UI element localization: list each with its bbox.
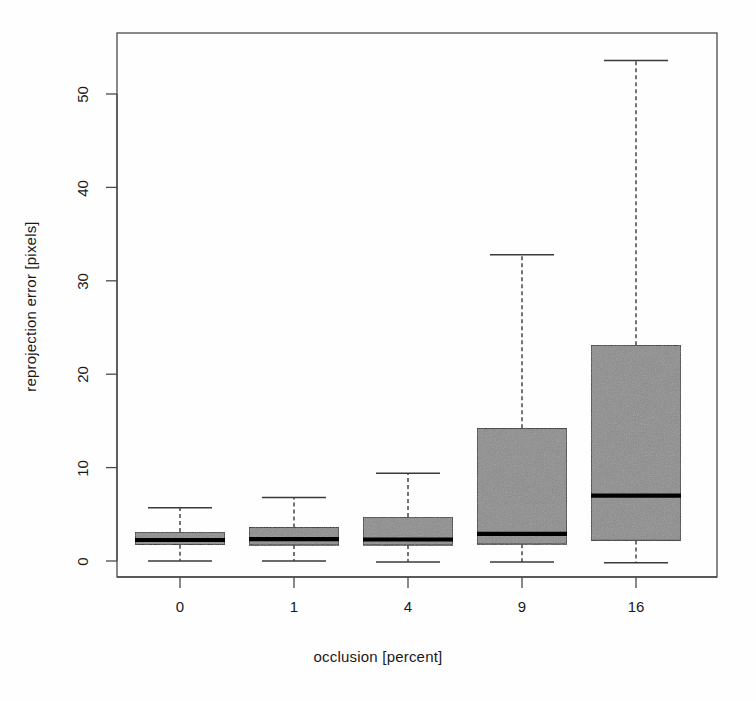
plot-area bbox=[0, 0, 756, 701]
box-body bbox=[249, 527, 339, 545]
box-0 bbox=[135, 508, 225, 561]
box-1 bbox=[249, 497, 339, 561]
boxplot-figure: reprojection error [pixels] occlusion [p… bbox=[0, 0, 756, 701]
box-16 bbox=[591, 60, 681, 562]
box-body bbox=[591, 345, 681, 540]
box-series bbox=[135, 60, 681, 562]
box-body bbox=[477, 428, 567, 544]
box-4 bbox=[363, 473, 453, 562]
box-9 bbox=[477, 255, 567, 562]
